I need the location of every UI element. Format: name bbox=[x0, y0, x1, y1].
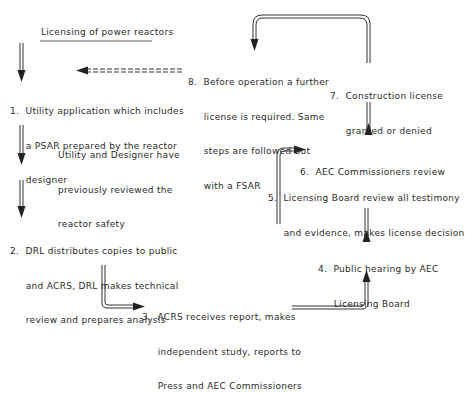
arrowhead-down bbox=[18, 206, 26, 218]
arrowhead-down bbox=[251, 39, 259, 51]
arrow-title-to-step1 bbox=[20, 43, 23, 72]
step-7: 7. Construction license granted or denie… bbox=[330, 68, 443, 149]
arrowhead-left bbox=[76, 67, 88, 75]
step-4: 4. Public hearing by AEC Licensing Board bbox=[318, 241, 439, 322]
diagram-title: Licensing of power reactors bbox=[41, 27, 173, 39]
arrowhead-down bbox=[18, 70, 26, 82]
step-3: 3. ACRS receives report, makes independe… bbox=[142, 289, 302, 393]
arrow-step8-to-step1-dashed bbox=[86, 69, 184, 72]
step-8: 8. Before operation a further license is… bbox=[188, 54, 329, 204]
